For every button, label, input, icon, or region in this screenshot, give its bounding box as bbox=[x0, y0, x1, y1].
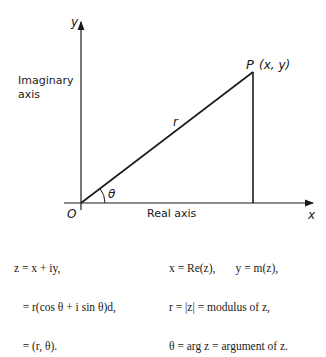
y-axis-label: y bbox=[70, 15, 79, 29]
point-label: P bbox=[246, 57, 254, 72]
origin-label: O bbox=[67, 207, 76, 221]
point-coords-label: (x, y) bbox=[259, 58, 290, 72]
imaginary-axis-label: Imaginary bbox=[18, 74, 74, 87]
radius-label: r bbox=[173, 115, 179, 129]
equation-line: r = |z| = modulus of z, bbox=[169, 301, 288, 314]
equation-line: θ = arg z = argument of z. bbox=[169, 340, 288, 353]
equation-line: = r(cos θ + i sin θ)d, bbox=[14, 301, 116, 314]
equation-line: z = x + iy, bbox=[14, 262, 116, 275]
angle-arc bbox=[100, 189, 105, 204]
x-axis-label: x bbox=[307, 208, 316, 222]
real-axis-label: Real axis bbox=[147, 207, 197, 220]
equations-right: x = Re(z), y = m(z), r = |z| = modulus o… bbox=[169, 236, 288, 357]
equation-line: = (r, θ). bbox=[14, 340, 116, 353]
radius-line bbox=[81, 72, 253, 203]
angle-label: θ bbox=[108, 187, 116, 201]
imaginary-axis-label-2: axis bbox=[18, 88, 40, 101]
equations-left: z = x + iy, = r(cos θ + i sin θ)d, = (r,… bbox=[14, 236, 116, 357]
equation-line: x = Re(z), y = m(z), bbox=[169, 262, 288, 275]
